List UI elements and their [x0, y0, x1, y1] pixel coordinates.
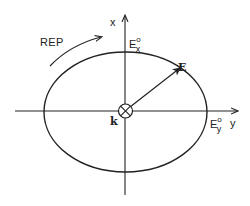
rotation-label: REP	[40, 37, 64, 48]
e-field-vector	[130, 68, 180, 107]
ey-amplitude-label: Eoy	[210, 117, 221, 133]
x-axis-label: x	[110, 17, 116, 28]
diagram-graphics	[0, 0, 250, 206]
y-axis-label: y	[230, 118, 236, 129]
k-vector-label: k	[110, 116, 118, 127]
e-field-label: E	[178, 62, 186, 73]
ex-amplitude-label: Eox	[129, 37, 140, 53]
k-into-page-icon	[119, 104, 133, 118]
polarization-diagram: x y REP E k Eox Eoy	[0, 0, 250, 206]
